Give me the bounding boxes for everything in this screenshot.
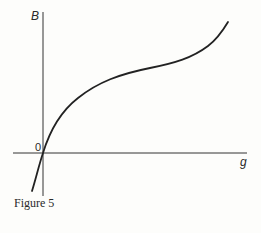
y-axis-label: B (31, 9, 39, 23)
figure: B 0 g Figure 5 (0, 0, 261, 233)
curve-b-of-g (32, 22, 228, 191)
figure-caption: Figure 5 (14, 196, 54, 211)
x-axis-label: g (240, 155, 247, 169)
origin-label: 0 (35, 141, 41, 153)
